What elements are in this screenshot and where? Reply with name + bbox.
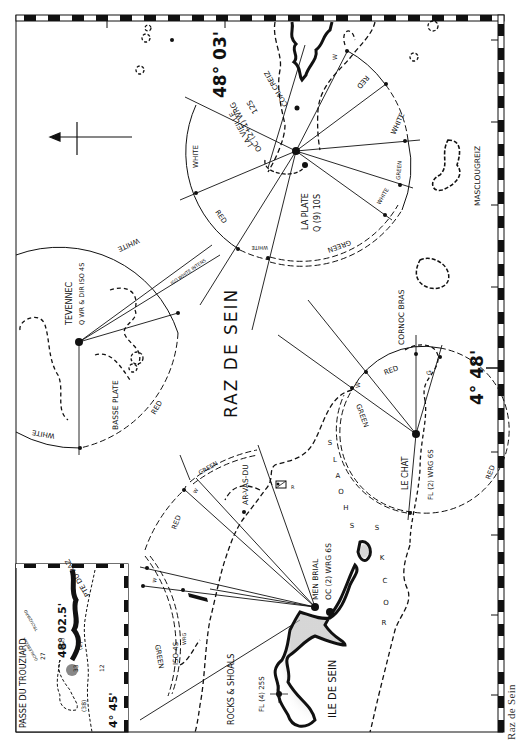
svg-text:W: W [331, 54, 338, 60]
svg-text:WHITE: WHITE [31, 428, 55, 440]
le-chat-sectors [278, 300, 509, 545]
sector-label-w: W [354, 382, 361, 388]
sector-label-w: W [192, 487, 200, 494]
inset-title: PASSE DU TROUZIARD [19, 638, 28, 728]
svg-text:Q WR & DIR ISO 4S: Q WR & DIR ISO 4S [78, 263, 86, 325]
la-vieille-period: 12S [245, 98, 260, 115]
la-plate-char: Q (9) 10S [313, 194, 322, 232]
rocks-label: S K C O R [375, 524, 389, 627]
cornoc-bras-label: CORNOC BRAS [397, 289, 406, 345]
svg-text:W: W [151, 577, 158, 583]
caption-text: Raz de Sein [505, 684, 517, 740]
svg-text:C: C [383, 577, 388, 585]
sector-label-white: WHITE [390, 112, 407, 136]
svg-text:4° 48': 4° 48' [467, 350, 487, 405]
sector-label-w: W [331, 54, 338, 60]
svg-text:MEN BRIAL: MEN BRIAL [311, 558, 320, 600]
basse-plate-label: BASSE PLATE [111, 380, 120, 430]
sector-label-green: GREEN [326, 238, 352, 254]
svg-text:AR-VAS-DU: AR-VAS-DU [241, 464, 250, 505]
svg-text:RED: RED [355, 74, 371, 90]
rocks-shoals-label: ROCKS & SHOALS [227, 654, 236, 725]
masclougreiz-label: MASCLOUGREIZ [473, 146, 482, 206]
shoals-label: S L A O H S [328, 439, 355, 530]
svg-text:GREEN: GREEN [354, 403, 370, 429]
svg-text:RED: RED [170, 514, 183, 531]
svg-text:A: A [336, 472, 341, 480]
svg-text:12: 12 [98, 664, 105, 672]
lat-label-top: 48° 03' [210, 31, 230, 98]
svg-text:H: H [343, 504, 348, 512]
strait-title: RAZ DE SEIN [221, 288, 241, 418]
sector-label-white: WHITE [116, 236, 140, 253]
svg-text:Q (9) 10S: Q (9) 10S [313, 194, 322, 232]
ar-vas-du-label: AR-VAS-DU [241, 464, 250, 505]
tevennec-label: TEVENNEC [65, 282, 74, 326]
sector-label-green: GREEN [354, 403, 370, 429]
sector-label-white: WHITE [31, 428, 55, 440]
sector-label-white: WHITE [192, 145, 200, 168]
iso-light-label: ISO 4S [172, 641, 180, 665]
sector-label-red: RED [355, 74, 371, 90]
le-chat-label: LE CHAT [401, 456, 410, 490]
svg-text:BASSE PLATE: BASSE PLATE [111, 380, 120, 430]
svg-text:4° 45': 4° 45' [107, 692, 120, 728]
masclougreiz-rock [433, 140, 460, 190]
svg-text:RED: RED [484, 464, 497, 481]
figure-caption: Raz de Sein [503, 650, 519, 740]
svg-text:S: S [328, 439, 333, 447]
rocks-top [136, 21, 438, 74]
svg-text:O: O [338, 488, 344, 496]
svg-text:LA PLATE: LA PLATE [301, 193, 310, 230]
svg-text:(38): (38) [80, 700, 87, 712]
ile-de-sein-label: ILE DE SEIN [327, 660, 338, 718]
svg-text:R: R [382, 619, 387, 627]
nautical-chart: 48° 03' 4° 48' MASCLOUGREIZ [0, 0, 521, 744]
svg-text:12S: 12S [245, 98, 260, 115]
shoal-boundary [180, 390, 410, 732]
sector-label-white: WHITE [252, 245, 268, 251]
svg-text:WHITE: WHITE [252, 245, 268, 251]
svg-text:O: O [383, 599, 389, 607]
sector-label-white: WHITE [376, 186, 390, 205]
svg-text:L: L [333, 456, 337, 464]
svg-text:GREEN: GREEN [153, 644, 165, 669]
men-brial-label: MEN BRIAL [311, 558, 320, 600]
svg-text:S: S [375, 524, 380, 532]
svg-text:48° 03': 48° 03' [210, 31, 230, 98]
ile-de-sein-light-label: FL (4) 25S [258, 676, 266, 712]
rock-east [416, 258, 448, 288]
svg-text:ISO 4S: ISO 4S [172, 641, 180, 665]
svg-text:WHITE: WHITE [390, 112, 407, 136]
sector-label-green: GREEN [395, 160, 403, 180]
svg-text:RED: RED [383, 364, 400, 377]
coalcreiz-label: COALCREIZ [263, 69, 290, 108]
svg-text:WHITE: WHITE [192, 145, 200, 168]
ar-vas-du-rock: R [276, 481, 295, 490]
sector-label-w: W [151, 577, 158, 583]
men-brial-char: OC (2) WRG 6S [324, 543, 333, 600]
ile-de-sein-island [270, 542, 370, 727]
svg-text:RED: RED [213, 209, 228, 226]
sector-label-red: RED [484, 464, 497, 481]
svg-text:PASSE DU TROUZIARD: PASSE DU TROUZIARD [19, 638, 28, 728]
sector-label-red: RED [170, 514, 183, 531]
svg-text:FL (2) WRG 6S: FL (2) WRG 6S [427, 449, 435, 500]
svg-text:WHITE: WHITE [376, 186, 390, 205]
sector-label-g: G [425, 370, 432, 375]
svg-text:COALCREIZ: COALCREIZ [263, 69, 290, 108]
basse-plate-rock [129, 352, 143, 372]
lon-label-right: 4° 48' [467, 350, 487, 405]
svg-text:FL (4) 25S: FL (4) 25S [258, 676, 266, 712]
svg-text:GREEN: GREEN [395, 160, 403, 180]
svg-text:S: S [350, 522, 355, 530]
le-chat-char: FL (2) WRG 6S [427, 449, 435, 500]
sector-label-red: RED [383, 364, 400, 377]
tevennec-marks [75, 311, 180, 450]
north-arrow-icon [50, 122, 132, 155]
svg-text:W: W [354, 382, 361, 388]
svg-text:(2): (2) [76, 642, 83, 651]
svg-text:WRG: WRG [181, 633, 187, 645]
sector-label-green: GREEN [153, 644, 165, 669]
svg-text:(82): (82) [58, 638, 65, 650]
